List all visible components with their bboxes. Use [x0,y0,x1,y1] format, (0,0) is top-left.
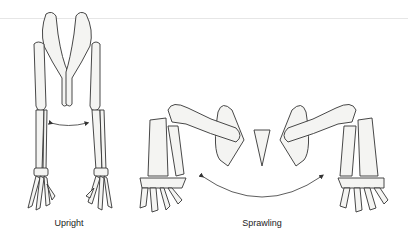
sprawling-motion-arrow [202,176,322,197]
sprawling-label: Sprawling [242,218,282,228]
upright-motion-arrow [51,123,87,126]
sprawling-skeleton [140,104,388,212]
limb-posture-illustration [0,0,408,238]
upright-label: Upright [54,218,83,228]
upright-skeleton [28,12,112,210]
